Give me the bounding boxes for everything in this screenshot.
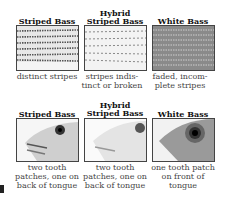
caption-white-bass-stripes: faded, incom-plete stripes bbox=[149, 72, 211, 90]
title-striped-bass: Striped Bass bbox=[15, 17, 79, 25]
white-bass-head-image bbox=[152, 118, 215, 162]
caption-hybrid-bass-stripes: stripes indis-tinct or broken bbox=[81, 72, 143, 90]
title-hybrid-striped-bass: Hybrid Striped Bass bbox=[83, 9, 147, 25]
caption-hybrid-bass-teeth: two tooth patches, one on back of tongue bbox=[81, 163, 149, 190]
white-bass-scales-image bbox=[152, 25, 215, 71]
title-striped-bass-2: Striped Bass bbox=[15, 110, 79, 118]
hybrid-bass-scales-image bbox=[84, 25, 147, 71]
title-white-bass-2: White Bass bbox=[151, 110, 215, 118]
edge-mark bbox=[0, 185, 4, 193]
caption-white-bass-teeth: one tooth patch on front of tongue bbox=[149, 163, 217, 190]
caption-striped-bass-teeth: two tooth patches, one on back of tongue bbox=[13, 163, 81, 190]
title-white-bass: White Bass bbox=[151, 17, 215, 25]
title-hybrid-striped-bass-2: Hybrid Striped Bass bbox=[83, 101, 147, 117]
striped-bass-scales-image bbox=[16, 25, 79, 71]
caption-striped-bass-stripes: distinct stripes bbox=[13, 72, 81, 81]
striped-bass-head-image bbox=[16, 118, 79, 162]
hybrid-bass-head-image bbox=[84, 118, 147, 162]
